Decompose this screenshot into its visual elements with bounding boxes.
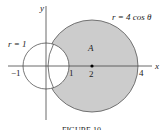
tick-2: 2	[89, 69, 94, 79]
diagram-canvas: y x r = 4 cos θ r = 1 A −1 1 2 4 FIGURE …	[0, 0, 164, 130]
figure-caption: FIGURE 10	[62, 126, 101, 130]
region-label: A	[87, 43, 94, 53]
center-point	[90, 64, 93, 67]
tick-neg1: −1	[11, 68, 21, 78]
big-curve-label: r = 4 cos θ	[112, 12, 152, 22]
tick-4: 4	[139, 68, 144, 78]
y-axis-label: y	[39, 3, 44, 13]
polar-area-diagram: y x r = 4 cos θ r = 1 A −1 1 2 4 FIGURE …	[0, 0, 164, 130]
tick-1: 1	[69, 68, 74, 78]
small-curve-label: r = 1	[8, 39, 27, 49]
x-axis-label: x	[154, 61, 159, 71]
